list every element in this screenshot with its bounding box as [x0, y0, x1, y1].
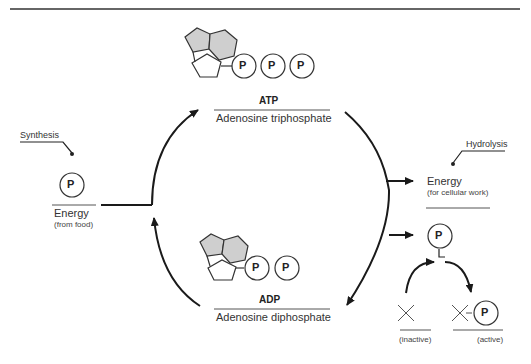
hydrolysis-energy-label: Energy — [427, 175, 462, 187]
atp-name: Adenosine triphosphate — [216, 112, 332, 124]
released-phosphate: P — [435, 229, 442, 241]
inactive-x-icon — [398, 305, 414, 321]
adp-phosphate-2: P — [282, 261, 289, 273]
active-x-icon — [452, 305, 472, 321]
hydrolysis-label: Hydrolysis — [466, 139, 508, 149]
inactive-label: (inactive) — [399, 335, 431, 344]
synthesis-energy-source: (from food) — [54, 220, 93, 229]
active-phosphate: P — [481, 306, 488, 318]
adp-molecule-icon — [200, 234, 299, 280]
active-label: (active) — [477, 335, 503, 344]
hydrolysis-energy-use: (for cellular work) — [427, 188, 488, 197]
synthesis-energy-label: Energy — [54, 207, 89, 219]
atp-phosphate-3: P — [297, 59, 304, 71]
synthesis-phosphate: P — [67, 178, 74, 190]
adp-abbr: ADP — [259, 294, 280, 305]
adp-name: Adenosine diphosphate — [216, 311, 331, 323]
atp-phosphate-2: P — [268, 59, 275, 71]
atp-phosphate-1: P — [239, 59, 246, 71]
atp-abbr: ATP — [259, 95, 278, 106]
atp-molecule-icon — [185, 28, 314, 78]
adp-phosphate-1: P — [252, 261, 259, 273]
synthesis-label: Synthesis — [20, 130, 59, 140]
